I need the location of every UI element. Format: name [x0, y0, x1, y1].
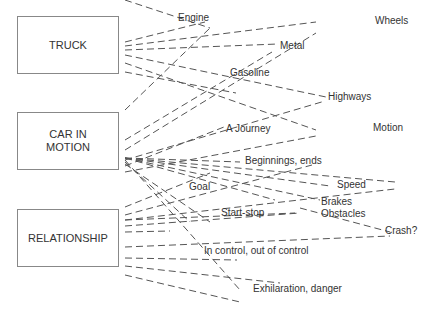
target-in-control: In control, out of control	[204, 245, 309, 256]
target-metal: Metal	[280, 40, 304, 51]
target-crash: Crash?	[385, 225, 417, 236]
source-box-car-in-motion: CAR IN MOTION	[17, 112, 119, 170]
target-start-stop: Start-stop	[221, 207, 264, 218]
source-label-truck: TRUCK	[49, 39, 87, 52]
source-box-truck: TRUCK	[17, 16, 119, 74]
target-engine: Engine	[178, 12, 209, 23]
target-obstacles: Obstacles	[321, 208, 365, 219]
target-beginnings-ends: Beginnings, ends	[245, 155, 322, 166]
source-label-relationship: RELATIONSHIP	[28, 232, 108, 245]
target-wheels: Wheels	[375, 15, 408, 26]
target-speed: Speed	[337, 179, 366, 190]
target-brakes: Brakes	[321, 196, 352, 207]
target-highways: Highways	[328, 91, 371, 102]
source-box-relationship: RELATIONSHIP	[17, 209, 119, 267]
target-gasoline: Gasoline	[230, 67, 269, 78]
source-label-car-in-motion: CAR IN MOTION	[46, 128, 90, 154]
target-a-journey: A Journey	[226, 123, 270, 134]
target-motion: Motion	[373, 122, 403, 133]
target-exhilaration-danger: Exhilaration, danger	[253, 283, 342, 294]
target-goal: Goal	[189, 181, 210, 192]
